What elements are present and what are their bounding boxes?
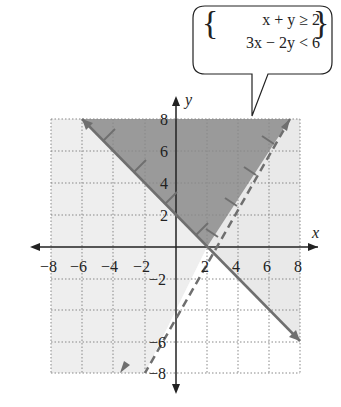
svg-text:2: 2 [201,258,209,275]
inequality-2: 3x − 2y < 6 [210,34,320,52]
svg-text:−8: −8 [149,365,166,382]
svg-text:4: 4 [160,175,168,192]
svg-text:−2: −2 [133,258,150,275]
y-axis-label: y [183,91,193,109]
svg-text:−6: −6 [70,258,87,275]
inequality-1: x + y ≥ 2 [228,11,320,29]
svg-text:2: 2 [160,207,168,224]
svg-text:8: 8 [160,111,168,128]
svg-text:−4: −4 [101,258,118,275]
svg-text:8: 8 [294,258,302,275]
x-axis-arrow-right-icon [308,243,318,251]
y-axis-arrow-up-icon [172,96,180,106]
graph: { } −8 −6 −4 −2 2 4 6 8 8 6 4 2 −2 −6 −8… [0,0,341,407]
svg-text:−8: −8 [40,258,57,275]
svg-text:4: 4 [232,258,240,275]
x-axis-label: x [311,224,319,241]
svg-text:−2: −2 [149,271,166,288]
svg-text:6: 6 [160,143,168,160]
svg-text:6: 6 [263,258,271,275]
x-axis-arrow-left-icon [30,243,40,251]
svg-text:−6: −6 [149,334,166,351]
y-axis-arrow-down-icon [172,384,180,394]
